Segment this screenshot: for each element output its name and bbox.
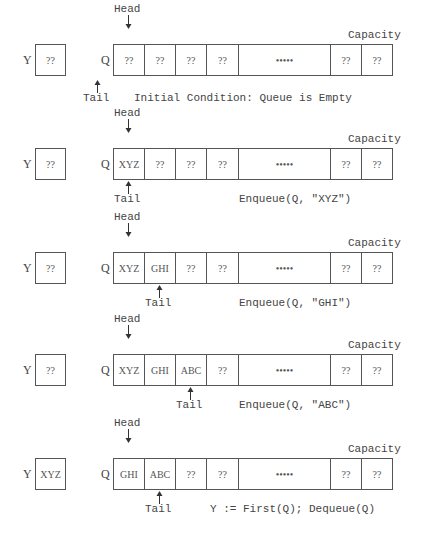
y-box: ??	[35, 44, 66, 76]
q-variable-label: Q	[101, 363, 110, 378]
y-variable-label: Y	[23, 467, 32, 482]
tail-label: Tail	[83, 92, 109, 104]
queue-array: XYZ ?? ?? ?? ••••• ?? ??	[113, 148, 393, 180]
queue-cell: ??	[362, 149, 392, 179]
queue-cell: ??	[176, 149, 207, 179]
queue-cell: ABC	[145, 459, 176, 489]
queue-cell: ??	[362, 355, 392, 385]
queue-cell: ??	[145, 149, 176, 179]
queue-cell: ??	[176, 459, 207, 489]
queue-cell: ABC	[176, 355, 207, 385]
queue-array: XYZ GHI ABC ?? ••••• ?? ??	[113, 354, 393, 386]
queue-cell: ??	[207, 253, 239, 283]
capacity-label: Capacity	[348, 443, 401, 455]
queue-cell: ??	[207, 45, 239, 75]
queue-cell: XYZ	[114, 149, 145, 179]
head-arrow-icon	[124, 325, 133, 340]
queue-cell: ??	[362, 45, 392, 75]
panel-dequeue: Head Capacity Y XYZ Q GHI ABC ?? ?? ••••…	[0, 414, 425, 518]
tail-label: Tail	[145, 503, 171, 515]
y-box: XYZ	[35, 458, 66, 490]
tail-label: Tail	[114, 193, 140, 205]
queue-ellipsis-cell: •••••	[239, 355, 331, 385]
queue-cell: ??	[331, 45, 362, 75]
q-variable-label: Q	[101, 53, 110, 68]
capacity-label: Capacity	[348, 237, 401, 249]
step-caption: Y := First(Q); Dequeue(Q)	[210, 503, 375, 515]
y-value: XYZ	[40, 469, 61, 480]
step-caption: Enqueue(Q, "XYZ")	[239, 193, 351, 205]
queue-array: XYZ GHI ?? ?? ••••• ?? ??	[113, 252, 393, 284]
q-variable-label: Q	[101, 467, 110, 482]
y-variable-label: Y	[23, 157, 32, 172]
queue-cell: GHI	[114, 459, 145, 489]
tail-label: Tail	[176, 399, 202, 411]
queue-ellipsis-cell: •••••	[239, 45, 331, 75]
queue-ellipsis-cell: •••••	[239, 459, 331, 489]
queue-cell: XYZ	[114, 355, 145, 385]
queue-cell: ??	[207, 459, 239, 489]
capacity-label: Capacity	[348, 133, 401, 145]
y-value: ??	[46, 365, 55, 376]
queue-cell: ??	[331, 149, 362, 179]
queue-cell: ??	[176, 45, 207, 75]
y-value: ??	[46, 55, 55, 66]
step-caption: Enqueue(Q, "ABC")	[239, 399, 351, 411]
head-arrow-icon	[124, 429, 133, 444]
capacity-label: Capacity	[348, 29, 401, 41]
capacity-label: Capacity	[348, 339, 401, 351]
step-caption: Initial Condition: Queue is Empty	[134, 92, 352, 104]
head-label: Head	[114, 107, 140, 119]
head-label: Head	[114, 211, 140, 223]
panel-initial: Head Capacity Y ?? Q ?? ?? ?? ?? ••••• ?…	[0, 0, 425, 104]
queue-ellipsis-cell: •••••	[239, 149, 331, 179]
queue-cell: ??	[331, 459, 362, 489]
tail-label: Tail	[145, 297, 171, 309]
y-value: ??	[46, 263, 55, 274]
y-box: ??	[35, 252, 66, 284]
y-box: ??	[35, 148, 66, 180]
head-arrow-icon	[124, 223, 133, 238]
queue-cell: ??	[114, 45, 145, 75]
q-variable-label: Q	[101, 157, 110, 172]
queue-cell: ??	[331, 355, 362, 385]
queue-ellipsis-cell: •••••	[239, 253, 331, 283]
queue-cell: XYZ	[114, 253, 145, 283]
queue-cell: ??	[362, 253, 392, 283]
y-variable-label: Y	[23, 53, 32, 68]
queue-cell: ??	[145, 45, 176, 75]
y-variable-label: Y	[23, 261, 32, 276]
head-arrow-icon	[124, 119, 133, 134]
head-arrow-icon	[124, 15, 133, 30]
queue-cell: GHI	[145, 355, 176, 385]
q-variable-label: Q	[101, 261, 110, 276]
queue-cell: ??	[176, 253, 207, 283]
queue-array: ?? ?? ?? ?? ••••• ?? ??	[113, 44, 393, 76]
queue-cell: ??	[207, 149, 239, 179]
queue-cell: GHI	[145, 253, 176, 283]
panel-enqueue-xyz: Head Capacity Y ?? Q XYZ ?? ?? ?? ••••• …	[0, 104, 425, 208]
step-caption: Enqueue(Q, "GHI")	[239, 297, 351, 309]
queue-cell: ??	[207, 355, 239, 385]
head-label: Head	[114, 313, 140, 325]
y-value: ??	[46, 159, 55, 170]
panel-enqueue-abc: Head Capacity Y ?? Q XYZ GHI ABC ?? ••••…	[0, 310, 425, 414]
head-label: Head	[114, 3, 140, 15]
queue-cell: ??	[331, 253, 362, 283]
head-label: Head	[114, 417, 140, 429]
panel-enqueue-ghi: Head Capacity Y ?? Q XYZ GHI ?? ?? •••••…	[0, 208, 425, 312]
queue-array: GHI ABC ?? ?? ••••• ?? ??	[113, 458, 393, 490]
y-box: ??	[35, 354, 66, 386]
queue-cell: ??	[362, 459, 392, 489]
y-variable-label: Y	[23, 363, 32, 378]
